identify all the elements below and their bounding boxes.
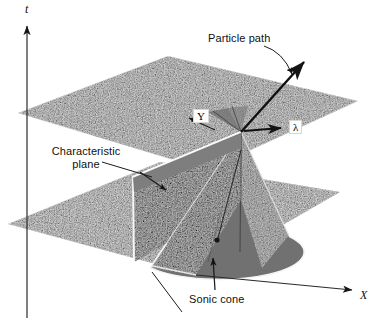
sonic-cone-label: Sonic cone <box>189 293 244 306</box>
x-axis-line <box>196 275 352 290</box>
x-axis-label: X <box>360 288 367 303</box>
figure-root: t X Particle path Characteristic plane S… <box>0 0 376 318</box>
particle-path-leader <box>264 46 292 74</box>
particle-path-label: Particle path <box>208 32 270 45</box>
disturbance-point <box>214 237 219 242</box>
characteristic-plane-label: Characteristic plane <box>40 145 132 171</box>
t-axis-label: t <box>25 2 28 17</box>
y-direction-label: Y <box>193 109 209 123</box>
lambda-label: λ <box>289 120 302 134</box>
sonic-cone-leader-2 <box>152 272 182 312</box>
